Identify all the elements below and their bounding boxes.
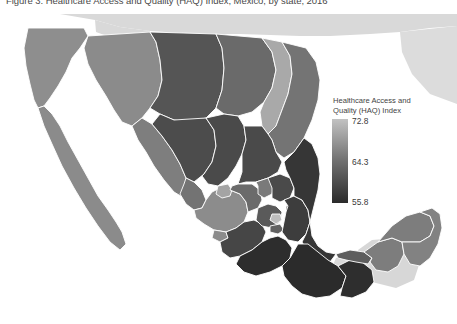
state-aguascalientes <box>216 184 232 198</box>
state-sonora <box>84 32 162 126</box>
map-legend: Healthcare Access and Quality (HAQ) Inde… <box>330 96 454 211</box>
legend-tick-mid: 64.3 <box>352 158 368 167</box>
state-baja-california-sur <box>38 106 126 250</box>
figure-title: Figure 3: Healthcare Access and Quality … <box>6 0 456 8</box>
legend-title-line-1: Healthcare Access and <box>333 96 411 105</box>
state-yucatan <box>378 212 434 242</box>
legend-tick-high: 72.8 <box>352 117 368 126</box>
legend-title: Healthcare Access and Quality (HAQ) Inde… <box>333 96 453 115</box>
map-panel: Healthcare Access and Quality (HAQ) Inde… <box>0 14 457 310</box>
legend-tick-low: 55.8 <box>352 198 368 207</box>
state-baja-california <box>24 28 88 108</box>
legend-colorbar <box>332 119 348 203</box>
legend-colorbar-wrap <box>332 119 348 203</box>
legend-title-line-2: Quality (HAQ) Index <box>333 106 401 115</box>
